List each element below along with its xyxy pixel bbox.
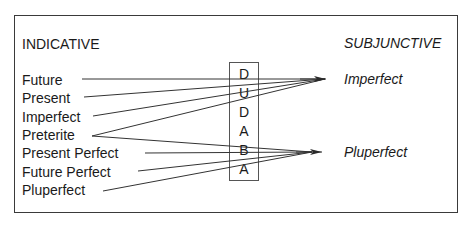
- mapping-arrows: [0, 0, 474, 225]
- arrow-pluperfect-pluperfect: [103, 152, 312, 191]
- arrow-present-perfect-pluperfect: [145, 152, 312, 153]
- arrow-preterite-pluperfect: [92, 136, 312, 152]
- arrow-imperfect-imperfect: [93, 79, 325, 116]
